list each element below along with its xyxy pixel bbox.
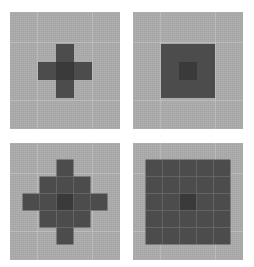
kernel-cell-r2-c1 [40,193,57,210]
kernel-cell-r2-c4 [214,193,231,210]
kernel-cell-r4-c3 [197,227,214,244]
kernel-cell-r2-c0 [23,193,40,210]
figure-root [0,0,254,267]
kernel-cell-r0-c1 [56,44,74,62]
panel-top-left [10,12,120,129]
kernel-cell-r3-c2 [180,210,197,227]
kernel-cell-r1-c0 [161,62,179,80]
kernel-cell-r4-c1 [163,227,180,244]
kernel-cell-r0-c0 [146,159,163,176]
kernel-grid-square-5x5 [146,159,231,244]
kernel-cell-r2-c0 [146,193,163,210]
kernel-cell-r4-c0 [146,227,163,244]
kernel-cell-r2-c3 [74,193,91,210]
kernel-cell-r4-c2 [180,227,197,244]
kernel-cell-r3-c1 [163,210,180,227]
kernel-cell-r0-c1 [163,159,180,176]
kernel-cell-r3-c3 [197,210,214,227]
kernel-cell-r1-c4 [214,176,231,193]
kernel-cell-r1-c0 [146,176,163,193]
kernel-cell-r0-c2 [197,44,215,62]
kernel-cell-r0-c2 [57,159,74,176]
kernel-grid-diamond-5x5 [23,159,108,244]
kernel-cell-r3-c4 [214,210,231,227]
kernel-cell-r0-c2 [180,159,197,176]
kernel-cell-r2-c2 [57,193,74,210]
kernel-cell-r0-c0 [38,44,56,62]
kernel-cell-r4-c3 [74,227,91,244]
kernel-cell-r2-c2 [180,193,197,210]
kernel-cell-r3-c4 [91,210,108,227]
kernel-cell-r2-c2 [197,80,215,98]
kernel-cell-r3-c1 [40,210,57,227]
kernel-cell-r1-c0 [23,176,40,193]
kernel-cell-r0-c3 [197,159,214,176]
kernel-cell-r1-c1 [163,176,180,193]
kernel-cell-r2-c1 [179,80,197,98]
kernel-cell-r0-c0 [23,159,40,176]
kernel-cell-r3-c3 [74,210,91,227]
kernel-grid-square-3x3 [161,44,215,98]
kernel-cell-r4-c1 [40,227,57,244]
kernel-cell-r2-c1 [163,193,180,210]
kernel-cell-r2-c0 [38,80,56,98]
kernel-grid-cross-3x3 [38,44,92,98]
kernel-cell-r1-c1 [179,62,197,80]
kernel-cell-r1-c1 [40,176,57,193]
kernel-cell-r1-c2 [197,62,215,80]
kernel-cell-r0-c4 [91,159,108,176]
kernel-cell-r1-c4 [91,176,108,193]
kernel-cell-r2-c3 [197,193,214,210]
kernel-cell-r0-c3 [74,159,91,176]
kernel-cell-r4-c4 [214,227,231,244]
kernel-cell-r1-c2 [74,62,92,80]
kernel-cell-r1-c3 [197,176,214,193]
kernel-cell-r2-c4 [91,193,108,210]
kernel-cell-r1-c2 [180,176,197,193]
kernel-cell-r1-c1 [56,62,74,80]
kernel-cell-r4-c0 [23,227,40,244]
kernel-cell-r2-c0 [161,80,179,98]
kernel-cell-r1-c0 [38,62,56,80]
kernel-cell-r3-c0 [23,210,40,227]
kernel-cell-r0-c0 [161,44,179,62]
kernel-cell-r2-c1 [56,80,74,98]
panel-bottom-left [10,143,120,260]
panel-top-right [133,12,243,129]
panel-bottom-right [133,143,243,260]
kernel-cell-r0-c2 [74,44,92,62]
kernel-cell-r3-c0 [146,210,163,227]
kernel-cell-r0-c4 [214,159,231,176]
kernel-cell-r4-c4 [91,227,108,244]
kernel-cell-r0-c1 [40,159,57,176]
kernel-cell-r1-c2 [57,176,74,193]
kernel-cell-r0-c1 [179,44,197,62]
kernel-cell-r1-c3 [74,176,91,193]
kernel-cell-r3-c2 [57,210,74,227]
kernel-cell-r2-c2 [74,80,92,98]
kernel-cell-r4-c2 [57,227,74,244]
